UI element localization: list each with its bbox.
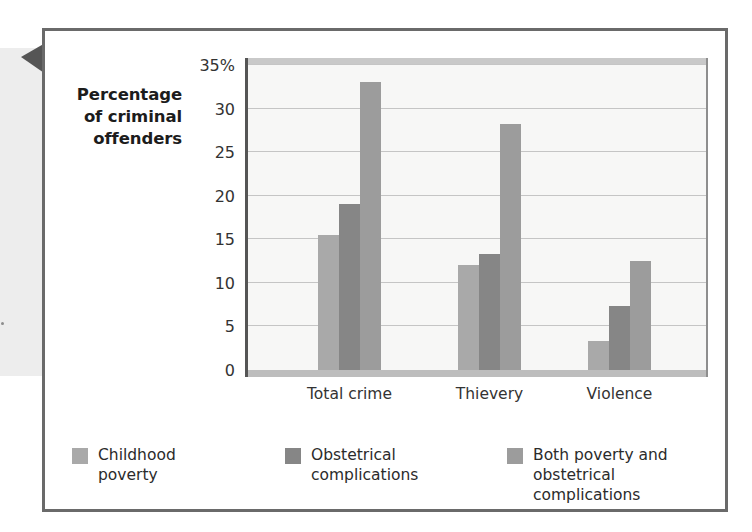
legend-item-label: Childhood poverty <box>98 446 176 486</box>
y-axis-title-line-2: of criminal <box>52 106 182 128</box>
legend-item-obstetrical-complications[interactable]: Obstetrical complications <box>285 446 418 486</box>
left-margin-dot <box>1 322 4 325</box>
y-tick-label: 0 <box>225 361 235 380</box>
y-tick-label: 30 <box>215 99 235 118</box>
left-gray-band <box>0 48 44 376</box>
plot-right-edge <box>706 58 708 377</box>
y-tick-label: 35% <box>199 56 235 75</box>
y-axis-title-line-3: offenders <box>52 128 182 150</box>
y-tick-label: 15 <box>215 230 235 249</box>
legend-item-both-poverty-and-obstetrical-complications[interactable]: Both poverty and obstetrical complicatio… <box>507 446 712 505</box>
bar-group <box>588 65 651 370</box>
legend-swatch-icon <box>72 448 88 464</box>
plot-frame <box>245 58 708 377</box>
bar[interactable] <box>479 254 500 370</box>
y-tick-label: 5 <box>225 317 235 336</box>
x-tick-label: Total crime <box>307 385 392 403</box>
bar[interactable] <box>630 261 651 370</box>
x-tick-label: Violence <box>587 385 653 403</box>
bar-chart: 05101520253035% Total crimeThieveryViole… <box>183 52 713 392</box>
y-axis-title: Percentage of criminal offenders <box>52 84 182 150</box>
bar-group <box>318 65 381 370</box>
plot-area <box>248 65 706 370</box>
bar[interactable] <box>588 341 609 370</box>
bar[interactable] <box>318 235 339 370</box>
legend-item-label: Obstetrical complications <box>311 446 418 486</box>
bar[interactable] <box>458 265 479 370</box>
y-tick-label: 10 <box>215 273 235 292</box>
bar[interactable] <box>609 306 630 370</box>
legend-item-childhood-poverty[interactable]: Childhood poverty <box>72 446 176 486</box>
x-axis-line <box>245 370 708 377</box>
legend-item-label: Both poverty and obstetrical complicatio… <box>533 446 712 505</box>
bar[interactable] <box>339 204 360 370</box>
bar[interactable] <box>500 124 521 370</box>
bars-layer <box>248 65 706 370</box>
y-tick-label: 25 <box>215 143 235 162</box>
bar-group <box>458 65 521 370</box>
bar[interactable] <box>360 82 381 370</box>
legend-swatch-icon <box>285 448 301 464</box>
y-axis-title-line-1: Percentage <box>52 84 182 106</box>
legend-swatch-icon <box>507 448 523 464</box>
x-tick-label: Thievery <box>456 385 523 403</box>
y-tick-label: 20 <box>215 186 235 205</box>
chart-legend: Childhood poverty Obstetrical complicati… <box>72 446 712 502</box>
